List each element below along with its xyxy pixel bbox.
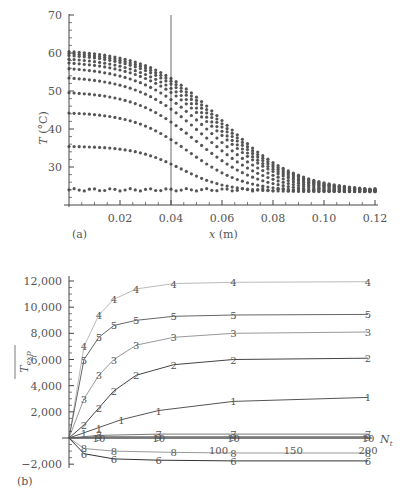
data-point (256, 184, 259, 187)
data-point (215, 121, 218, 124)
data-point (139, 151, 142, 154)
data-point (159, 158, 162, 161)
data-point (129, 77, 132, 80)
data-point (261, 174, 264, 177)
data-point (134, 102, 137, 105)
data-point (185, 94, 188, 97)
series-marker-1: 1 (156, 406, 162, 417)
data-point (266, 186, 269, 189)
data-point (210, 113, 213, 116)
panel-a-y-tick-label: 50 (48, 85, 62, 98)
data-point (93, 52, 96, 55)
data-point (185, 119, 188, 122)
data-point (241, 180, 244, 183)
data-point (83, 112, 86, 115)
data-point (246, 167, 249, 170)
data-point (164, 160, 167, 163)
data-point (261, 185, 264, 188)
data-point (98, 189, 101, 192)
data-point (210, 152, 213, 155)
data-point (220, 134, 223, 137)
data-point (78, 51, 81, 54)
data-point (144, 77, 147, 80)
data-point (78, 62, 81, 65)
data-point (261, 154, 264, 157)
data-point (159, 114, 162, 117)
data-point (287, 185, 290, 188)
data-point (190, 114, 193, 117)
data-point (88, 59, 91, 62)
data-point (154, 78, 157, 81)
data-point (205, 105, 208, 108)
series-marker-6: 6 (81, 449, 87, 460)
data-point (220, 122, 223, 125)
data-point (144, 125, 147, 128)
data-point (287, 169, 290, 172)
data-point (231, 176, 234, 179)
data-point (185, 98, 188, 101)
series-marker-2: 2 (365, 353, 371, 364)
data-point (251, 155, 254, 158)
data-point (256, 159, 259, 162)
data-point (175, 90, 178, 93)
data-point (159, 91, 162, 94)
data-point (251, 183, 254, 186)
data-point (195, 175, 198, 178)
data-point (195, 96, 198, 99)
data-point (73, 58, 76, 61)
data-point (108, 55, 111, 58)
data-point (231, 139, 234, 142)
data-point (164, 104, 167, 107)
data-point (205, 137, 208, 140)
data-point (231, 135, 234, 138)
data-point (220, 183, 223, 186)
data-point (129, 149, 132, 152)
data-point (231, 129, 234, 132)
data-point (139, 104, 142, 107)
data-point (154, 88, 157, 91)
series-marker-2: 2 (96, 403, 102, 414)
series-line-5 (69, 314, 368, 438)
data-point (175, 111, 178, 114)
data-point (358, 187, 361, 190)
data-point (282, 184, 285, 187)
data-point (180, 98, 183, 101)
data-point (180, 145, 183, 148)
data-point (200, 103, 203, 106)
data-point (220, 130, 223, 133)
data-point (266, 181, 269, 184)
data-point (353, 186, 356, 189)
series-marker-3: 3 (170, 332, 176, 343)
data-point (103, 80, 106, 83)
data-point (154, 98, 157, 101)
data-point (241, 187, 244, 190)
panel-a-x-tick-label: 0.10 (312, 212, 337, 225)
data-point (215, 114, 218, 117)
data-point (159, 189, 162, 192)
data-point (271, 186, 274, 189)
panel-b-chart: 4444444555555533333332222222111111777799… (15, 275, 393, 488)
data-point (93, 113, 96, 116)
data-point (175, 165, 178, 168)
panel-a-label: (a) (72, 228, 87, 241)
data-point (282, 187, 285, 190)
data-point (118, 75, 121, 78)
data-point (256, 178, 259, 181)
data-point (129, 119, 132, 122)
data-point (277, 187, 280, 190)
data-point (251, 169, 254, 172)
data-point (149, 75, 152, 78)
data-point (113, 82, 116, 85)
data-point (154, 156, 157, 159)
data-point (205, 162, 208, 165)
series-marker-3: 3 (230, 328, 236, 339)
data-point (139, 71, 142, 74)
data-point (164, 83, 167, 86)
data-point (205, 187, 208, 190)
data-point (271, 174, 274, 177)
data-point (200, 159, 203, 162)
data-point (108, 81, 111, 84)
data-point (98, 114, 101, 117)
data-point (200, 177, 203, 180)
panel-b-x-tick-label: 100 (209, 445, 228, 456)
